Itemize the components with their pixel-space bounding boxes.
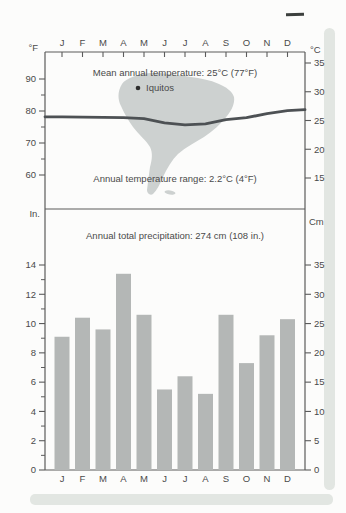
precipitation-bar xyxy=(239,363,254,470)
month-label-top: F xyxy=(80,37,86,48)
precipitation-bar xyxy=(280,319,295,470)
month-label-bottom: J xyxy=(183,473,188,484)
cm-axis-tick-label: 30 xyxy=(314,289,325,300)
f-axis-tick-label: 80 xyxy=(25,105,36,116)
month-label-bottom: O xyxy=(243,473,250,484)
month-label-bottom: J xyxy=(162,473,167,484)
in-axis-tick-label: 14 xyxy=(25,259,36,270)
month-label-bottom: M xyxy=(99,473,107,484)
precipitation-bar xyxy=(198,394,213,470)
celsius-axis-unit-label: °C xyxy=(310,44,321,55)
precipitation-bar xyxy=(55,337,70,470)
precipitation-bar xyxy=(219,315,234,470)
precipitation-bar xyxy=(137,315,152,470)
c-axis-tick-label: 15 xyxy=(314,172,325,183)
in-axis-tick-label: 12 xyxy=(25,289,36,300)
month-label-bottom: J xyxy=(60,473,65,484)
tierra-del-fuego-islet xyxy=(164,190,175,195)
month-label-bottom: F xyxy=(80,473,86,484)
c-axis-tick-label: 20 xyxy=(314,144,325,155)
f-axis-tick-label: 70 xyxy=(25,137,36,148)
month-label-top: M xyxy=(140,37,148,48)
month-label-bottom: M xyxy=(140,473,148,484)
month-label-bottom: A xyxy=(202,473,209,484)
month-label-bottom: D xyxy=(284,473,291,484)
c-axis-tick-label: 25 xyxy=(314,115,325,126)
precipitation-total-annotation: Annual total precipitation: 274 cm (108 … xyxy=(45,230,305,241)
cm-axis-tick-label: 0 xyxy=(314,464,319,475)
climograph-figure: JJFFMMAAMMJJJJAASSOONNDD9080706035302520… xyxy=(0,0,346,513)
month-label-top: A xyxy=(202,37,209,48)
in-axis-tick-label: 6 xyxy=(31,376,36,387)
month-label-bottom: S xyxy=(223,473,229,484)
mean-temperature-annotation: Mean annual temperature: 25°C (77°F) xyxy=(45,67,305,78)
centimeters-axis-unit-label: Cm xyxy=(309,216,324,227)
cm-axis-tick-label: 35 xyxy=(314,259,325,270)
iquitos-city-dot xyxy=(136,86,141,91)
month-label-top: A xyxy=(120,37,127,48)
cm-axis-tick-label: 15 xyxy=(314,376,325,387)
f-axis-tick-label: 60 xyxy=(25,169,36,180)
inches-axis-unit-label: In. xyxy=(14,208,40,219)
c-axis-tick-label: 35 xyxy=(314,57,325,68)
cm-axis-tick-label: 10 xyxy=(314,406,325,417)
in-axis-tick-label: 2 xyxy=(31,435,36,446)
temperature-range-annotation: Annual temperature range: 2.2°C (4°F) xyxy=(45,173,305,184)
month-label-top: J xyxy=(162,37,167,48)
cm-axis-tick-label: 25 xyxy=(314,318,325,329)
iquitos-station-label: Iquitos xyxy=(146,82,174,93)
month-label-bottom: A xyxy=(120,473,127,484)
precipitation-bar xyxy=(96,329,111,470)
month-label-top: M xyxy=(99,37,107,48)
in-axis-tick-label: 4 xyxy=(31,406,36,417)
month-label-top: D xyxy=(284,37,291,48)
cm-axis-tick-label: 20 xyxy=(314,347,325,358)
in-axis-tick-label: 0 xyxy=(31,464,36,475)
precipitation-bar xyxy=(178,376,193,470)
precipitation-bar xyxy=(75,318,90,470)
month-label-top: S xyxy=(223,37,229,48)
month-label-top: J xyxy=(183,37,188,48)
in-axis-tick-label: 8 xyxy=(31,347,36,358)
precipitation-bar xyxy=(157,389,172,470)
month-label-bottom: N xyxy=(264,473,271,484)
month-label-top: J xyxy=(60,37,65,48)
month-label-top: O xyxy=(243,37,250,48)
precipitation-bar xyxy=(116,274,131,470)
in-axis-tick-label: 10 xyxy=(25,318,36,329)
fahrenheit-axis-unit-label: °F xyxy=(12,42,38,53)
precipitation-bar xyxy=(260,335,275,470)
f-axis-tick-label: 90 xyxy=(25,73,36,84)
month-label-top: N xyxy=(264,37,271,48)
cm-axis-tick-label: 5 xyxy=(314,435,319,446)
c-axis-tick-label: 30 xyxy=(314,86,325,97)
